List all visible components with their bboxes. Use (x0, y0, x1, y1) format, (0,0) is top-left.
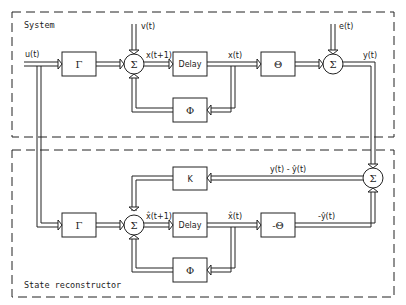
signal-xhat-next: x̂(t+1) (146, 211, 172, 221)
neg-theta-label: -Θ (272, 220, 284, 231)
sum2-label: Σ (329, 59, 336, 70)
signal-u: u(t) (25, 50, 39, 59)
reconstructor-section-label: State reconstructor (24, 280, 121, 290)
theta-label: Θ (274, 59, 282, 70)
signal-y: y(t) (363, 51, 377, 60)
sum1-label: Σ (130, 59, 137, 70)
k-label: K (187, 175, 193, 184)
gamma-label-system: Γ (76, 59, 83, 70)
system-boundary (12, 12, 394, 137)
signal-innovation: y(t) - ŷ(t) (270, 165, 306, 174)
phi-label-reconstructor: Φ (186, 265, 194, 276)
delay-label-system: Delay (179, 60, 202, 69)
system-section-label: System (24, 20, 55, 30)
delay-label-reconstructor: Delay (179, 221, 202, 230)
gamma-label-reconstructor: Γ (76, 220, 83, 231)
sum4-label: Σ (369, 173, 376, 184)
state-reconstructor-diagram: System State reconstructor Γ Σ Delay Θ Σ… (0, 0, 406, 305)
sum3-label: Σ (130, 220, 137, 231)
signal-v: v(t) (141, 22, 155, 31)
signal-x-next: x(t+1) (146, 51, 172, 60)
signal-neg-yhat: -ŷ(t) (318, 212, 335, 221)
phi-label-system: Φ (186, 105, 194, 116)
signal-e: e(t) (339, 22, 353, 31)
signal-x: x(t) (228, 51, 242, 60)
signal-xhat: x̂(t) (228, 211, 242, 221)
